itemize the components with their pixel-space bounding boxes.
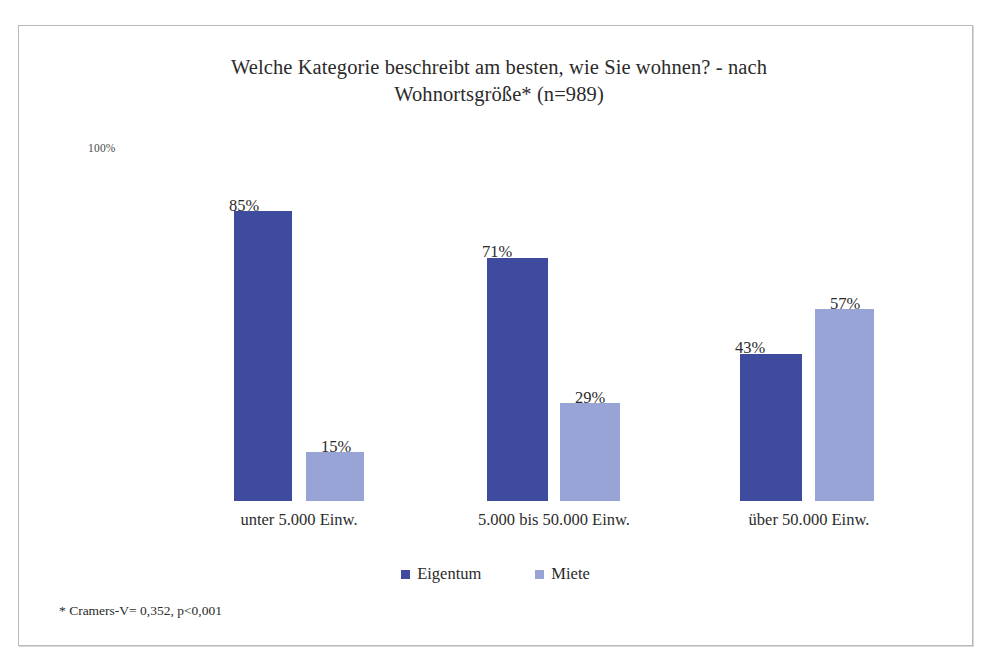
category-label-1: 5.000 bis 50.000 Einw. (443, 510, 665, 530)
legend-item-eigentum[interactable]: Eigentum (401, 564, 481, 584)
legend-label-eigentum: Eigentum (417, 564, 481, 584)
chart-legend: Eigentum Miete (19, 564, 972, 584)
legend-item-miete[interactable]: Miete (535, 564, 590, 584)
bar-eigentum-2 (740, 354, 802, 501)
legend-swatch-icon-eigentum (401, 570, 410, 579)
bar-miete-0 (306, 452, 364, 501)
bar-miete-2 (815, 309, 874, 501)
bar-eigentum-1 (487, 258, 548, 501)
chart-frame: Welche Kategorie beschreibt am besten, w… (18, 25, 973, 646)
category-label-0: unter 5.000 Einw. (199, 510, 399, 530)
bar-miete-1 (560, 403, 620, 501)
bar-eigentum-0 (234, 211, 292, 501)
legend-swatch-icon-miete (535, 570, 544, 579)
category-label-2: über 50.000 Einw. (709, 510, 909, 530)
legend-label-miete: Miete (551, 564, 590, 584)
chart-footnote: * Cramers-V= 0,352, p<0,001 (59, 603, 222, 619)
plot-area: 85% 15% unter 5.000 Einw. 71% 29% 5.000 … (19, 26, 972, 645)
